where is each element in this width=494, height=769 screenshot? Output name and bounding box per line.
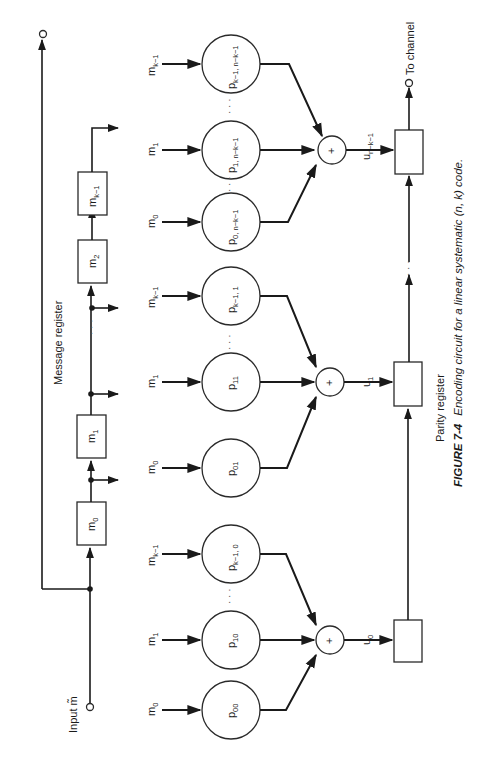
parity-cell-0 (394, 620, 422, 662)
message-register-label: Message register (52, 300, 64, 385)
output-label-u: u1 (360, 377, 375, 387)
output-label-u: un−k−1 (360, 133, 375, 160)
input-label-m: m0 (145, 703, 160, 716)
input-label-m: m1 (145, 633, 160, 646)
input-label-m: m0 (145, 461, 160, 474)
ellipsis: · · · (224, 334, 235, 350)
parity-network (162, 35, 423, 739)
ellipsis: · · · (403, 260, 414, 276)
input-label-m: m0 (145, 215, 160, 228)
ellipsis: · · · (86, 319, 97, 335)
adder-symbol: + (323, 638, 335, 644)
parity-register-label: Parity register (434, 374, 446, 442)
figure-caption: FIGURE 7-4Encoding circuit for a linear … (452, 159, 464, 487)
input-terminal-icon (87, 704, 94, 711)
ellipsis: · · · (224, 176, 235, 192)
input-label-m: mk−1 (145, 55, 160, 76)
to-channel-label: To channel (404, 22, 416, 75)
feedback-output-terminal-icon (40, 31, 47, 38)
parity-cell-n-k-1 (395, 130, 423, 174)
input-label-m: mk−1 (145, 287, 160, 308)
adder-symbol: + (325, 148, 337, 154)
adder-symbol: + (323, 380, 335, 386)
input-label-m: mk−1 (145, 545, 160, 566)
input-wire (40, 31, 94, 711)
input-label-m: m1 (145, 375, 160, 388)
ellipsis: · · · (224, 588, 235, 604)
input-label-m: m1 (145, 143, 160, 156)
parity-cell-1 (394, 362, 422, 406)
ellipsis: · · · (224, 98, 235, 114)
encoding-circuit-diagram: Input m̃ Message register m0 m1 m2 mk−1 … (0, 0, 494, 769)
output-label-u: u0 (360, 635, 375, 645)
input-label: Input m̃ (67, 696, 79, 733)
channel-output-terminal-icon (406, 80, 413, 87)
